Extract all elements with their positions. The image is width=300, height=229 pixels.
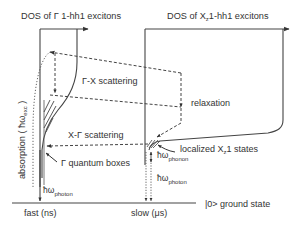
x-gamma-scattering-label: X-Γ scattering [68, 130, 123, 140]
ground-state-label: |0> ground state [205, 199, 270, 209]
relaxation-label: relaxation [191, 98, 230, 108]
fast-label: fast (ns) [24, 208, 57, 218]
quantum-box-hatching [44, 100, 56, 132]
slow-label: slow (μs) [131, 208, 167, 218]
quantum-boxes-label: Γ quantum boxes [61, 158, 130, 168]
gamma-x-scattering-label: Γ-X scattering [82, 76, 137, 86]
localized-states-label: localized Xz1 states [180, 144, 259, 155]
x-dos-title: DOS of Xz1-hh1 excitons [167, 11, 269, 22]
gamma-dos-title: DOS of Γ 1-hh1 excitons [21, 11, 121, 21]
hw-photon-label-fast: ħωphoton [43, 185, 73, 197]
quantum-boxes-pointer [46, 153, 57, 162]
y-axis-label: absorption ( ħωexc ) [17, 101, 28, 179]
hw-photon-label-slow: ħωphoton [157, 173, 187, 185]
exciton-scattering-diagram: DOS of Γ 1-hh1 excitons DOS of Xz1-hh1 e… [0, 0, 300, 229]
